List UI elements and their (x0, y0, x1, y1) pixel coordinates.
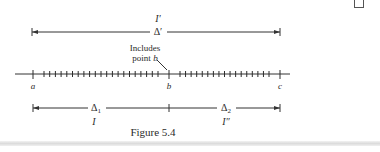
page-edge-shadow (0, 141, 380, 146)
corner-box-icon (354, 0, 364, 8)
annotation-point-text: point (132, 53, 153, 63)
point-label-b: b (167, 81, 172, 91)
top-interval-left-arrow (32, 30, 38, 34)
delta-2-subscript: 2 (227, 107, 231, 115)
main-axis: a b c (15, 70, 290, 91)
delta-1-label: Δ1 (91, 102, 101, 115)
top-interval-delta-label: Δ′ (154, 26, 163, 37)
annotation-line-2: point b (132, 53, 158, 63)
delta-2-label: Δ2 (221, 102, 231, 115)
interval-2-label: I″ (221, 116, 230, 127)
figure-caption: Figure 5.4 (130, 126, 176, 138)
figure-diagram: I′ Δ′ Includes point b a b c Δ1 Δ2 I I″ … (0, 0, 380, 152)
annotation-leader-line (157, 60, 167, 70)
sub-intervals: Δ1 Δ2 I I″ (33, 102, 280, 127)
top-interval: I′ Δ′ (32, 13, 280, 37)
point-label-a: a (31, 81, 36, 91)
annotation: Includes point b (130, 43, 167, 70)
delta-1-subscript: 1 (97, 107, 101, 115)
top-interval-right-arrow (274, 30, 280, 34)
top-interval-label: I′ (154, 13, 161, 24)
sub-interval-right-arrow (274, 106, 280, 110)
interval-1-label: I (91, 116, 96, 127)
point-label-c: c (278, 81, 282, 91)
annotation-point-name: b (153, 53, 158, 63)
annotation-line-1: Includes (130, 43, 161, 53)
